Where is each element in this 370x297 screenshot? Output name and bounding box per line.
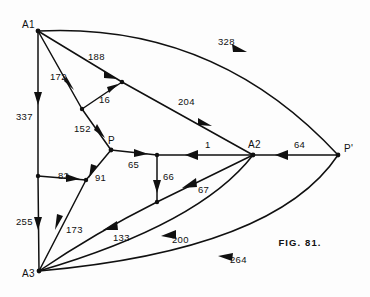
- edge-label-133: 133: [113, 232, 130, 243]
- terminal-node-a2: [251, 153, 256, 158]
- node-label-a2: A2: [248, 139, 261, 150]
- node-label-a1: A1: [22, 19, 35, 30]
- edge-337: [34, 31, 42, 176]
- edge-label-91: 91: [95, 172, 106, 183]
- edge-172-line: [38, 31, 82, 109]
- edge-133-arrowhead: [103, 221, 118, 230]
- edge-label-172: 172: [50, 71, 67, 82]
- edge-328: [38, 30, 338, 155]
- terminal-node-a3: [37, 269, 42, 274]
- edge-label-188: 188: [88, 51, 105, 62]
- edge-65-arrowhead: [134, 149, 148, 157]
- junction-node: [36, 174, 40, 178]
- edge-337-arrowhead: [34, 92, 42, 105]
- edge-label-200: 200: [172, 234, 189, 245]
- edge-64: [253, 150, 338, 160]
- edge-66: [153, 155, 161, 202]
- edge-255-arrowhead: [34, 217, 42, 230]
- edge-67-arrowhead: [182, 178, 197, 188]
- edge-66-arrowhead: [153, 180, 161, 193]
- junction-node: [84, 178, 88, 182]
- figure-caption: FIG. 81.: [278, 237, 321, 248]
- edge-label-173: 173: [66, 224, 83, 235]
- edge-label-66: 66: [163, 171, 174, 182]
- edge-label-328: 328: [218, 36, 235, 47]
- edge-264-arc: [39, 155, 338, 271]
- edge-label-337: 337: [16, 111, 33, 122]
- node-label-p: P: [108, 135, 115, 146]
- edge-152-arrowhead: [94, 124, 105, 138]
- edge-200-arc: [39, 155, 253, 271]
- edge-264: [39, 155, 338, 271]
- edge-label-255: 255: [16, 216, 33, 227]
- edge-255: [34, 176, 42, 271]
- junction-node: [155, 200, 159, 204]
- junction-node: [80, 107, 84, 111]
- terminal-node-p: [109, 148, 114, 153]
- edge-label-152: 152: [74, 123, 91, 134]
- junction-node: [155, 153, 159, 157]
- edge-label-204: 204: [178, 96, 195, 107]
- edge-204-arrowhead: [198, 118, 212, 126]
- edge-204-line: [122, 82, 253, 155]
- edge-204: [122, 82, 253, 155]
- edge-64-arrowhead: [275, 150, 288, 160]
- edge-label-16: 16: [99, 94, 110, 105]
- edge-16-arrowhead: [107, 84, 118, 93]
- network-diagram-canvas: 188 204 328 172 16 152 337 255 82 91 173…: [0, 0, 370, 297]
- edge-label-264: 264: [230, 254, 247, 265]
- node-label-a3: A3: [22, 268, 35, 279]
- edge-label-65: 65: [128, 159, 139, 170]
- terminal-node-a1: [36, 29, 41, 34]
- edge-label-1: 1: [205, 139, 211, 150]
- junction-node: [120, 80, 124, 84]
- edge-200: [39, 155, 253, 271]
- edge-172: [38, 31, 82, 109]
- edge-label-64: 64: [294, 139, 305, 150]
- node-label-pprime: P': [344, 143, 353, 154]
- edge-65: [111, 149, 157, 157]
- edge-1: [157, 150, 253, 160]
- edge-328-arc: [38, 30, 338, 155]
- figure-81-diagram: 188 204 328 172 16 152 337 255 82 91 173…: [0, 0, 370, 297]
- edge-label-82: 82: [58, 170, 69, 181]
- edge-1-arrowhead: [185, 150, 198, 160]
- edge-label-67: 67: [198, 184, 209, 195]
- terminal-node-pprime: [336, 153, 341, 158]
